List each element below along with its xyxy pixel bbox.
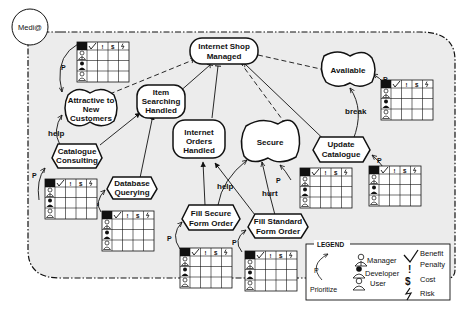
legend-user: User [370,279,386,288]
goal-internet-orders-handled[interactable]: Internet Orders Handled [173,120,225,158]
break-label: break [345,107,367,116]
legend-penalty: Penalty [420,260,445,269]
prioritize-p-7: P [167,235,172,242]
svg-text:Customers: Customers [70,114,112,123]
prioritize-p-8: P [232,239,237,246]
priority-matrix-database-querying [102,211,154,251]
svg-text:Catalogue: Catalogue [58,147,97,156]
help-label-2: help [217,182,234,191]
legend-title: LEGEND [317,241,344,248]
prioritize-p-6: P [377,157,382,164]
legend-developer: Developer [365,269,400,278]
priority-matrix-fill-secure [180,248,232,288]
legend-manager: Manager [367,256,397,265]
svg-text:Attractive to: Attractive to [68,96,115,105]
legend-p: P [314,267,319,274]
svg-text:Form Order: Form Order [256,227,300,236]
prioritize-p-5: P [276,177,281,184]
priority-matrix-available [381,80,433,120]
svg-text:Catalogue: Catalogue [322,150,361,159]
softgoal-secure[interactable]: Secure [241,120,299,162]
svg-text:Orders: Orders [186,137,213,146]
legend-benefit: Benefit [420,249,444,258]
goal-item-searching-handled[interactable]: Item Searching Handled [137,85,185,118]
softgoal-available[interactable]: Avaliable [321,52,375,86]
svg-text:Avaliable: Avaliable [331,66,366,75]
task-update-catalogue[interactable]: Update Catalogue [313,137,370,162]
legend-prioritize: Prioritize [310,286,337,293]
svg-text:Item: Item [153,88,169,97]
svg-text:Querying: Querying [114,188,149,197]
legend-risk: Risk [420,289,435,298]
task-database-querying[interactable]: Database Querying [107,177,157,199]
priority-matrix-secure [300,168,352,208]
svg-text:Handled: Handled [145,106,177,115]
svg-text:Form Order: Form Order [189,219,233,228]
svg-text:Update: Update [327,140,355,149]
legend: LEGEND P Prioritize Manager Developer Us… [306,240,450,300]
hurt-label: hurt [262,189,278,198]
svg-text:Secure: Secure [257,138,284,147]
svg-text:Internet Shop: Internet Shop [198,42,250,51]
priority-matrix-update-catalogue [369,166,421,206]
diagram-canvas: ! $ [0,0,463,316]
svg-text:Fill Secure: Fill Secure [191,209,232,218]
svg-text:New: New [83,105,100,114]
help-label-1: help [48,129,65,138]
svg-text:Database: Database [114,179,150,188]
task-catalogue-consulting[interactable]: Catalogue Consulting [52,144,102,168]
svg-text:Searching: Searching [142,97,181,106]
prioritize-p-3: P [32,172,37,179]
cost-icon: $ [405,276,411,287]
svg-text:Consulting: Consulting [56,156,98,165]
priority-matrix-catalogue-consulting [45,179,97,219]
actor-label: Medi@ [18,23,42,32]
goal-internet-shop-managed[interactable]: Internet Shop Managed [190,38,258,64]
svg-text:Managed: Managed [207,52,242,61]
priority-matrix-fill-standard [245,251,297,291]
task-fill-secure-form-order[interactable]: Fill Secure Form Order [182,205,240,230]
penalty-icon: ! [408,264,411,275]
svg-text:Internet: Internet [184,128,214,137]
legend-cost: Cost [420,275,436,284]
svg-text:Fill Standard: Fill Standard [254,217,303,226]
priority-matrix-attractive [77,42,129,82]
prioritize-p-1: P [61,64,66,71]
softgoal-attractive-to-new-customers[interactable]: Attractive to New Customers [65,89,117,125]
task-fill-standard-form-order[interactable]: Fill Standard Form Order [248,214,308,238]
svg-text:Handled: Handled [183,146,215,155]
